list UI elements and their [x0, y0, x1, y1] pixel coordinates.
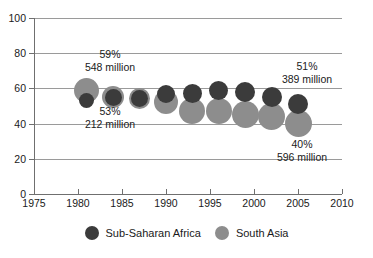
bubble-south-asia-2005[interactable]	[285, 110, 312, 137]
bubble-south-asia-2002[interactable]	[258, 103, 285, 130]
legend-label: Sub-Saharan Africa	[106, 227, 201, 239]
annotation-south-asia-1981: 59% 548 million	[56, 48, 164, 73]
annotation-value: 389 million	[253, 73, 361, 86]
bubble-sub-saharan-africa-1990[interactable]	[157, 85, 175, 103]
annotation-percent: 59%	[56, 48, 164, 61]
annotation-percent: 51%	[253, 60, 361, 73]
bubble-sub-saharan-africa-2002[interactable]	[262, 87, 282, 107]
annotation-percent: 40%	[248, 138, 356, 151]
bubble-sub-saharan-africa-1996[interactable]	[209, 81, 228, 100]
bubble-chart: 100 80 60 40 20 0 1975 1980 1985 1990 19…	[0, 0, 373, 258]
annotation-percent: 53%	[56, 105, 164, 118]
bubble-south-asia-1999[interactable]	[232, 101, 259, 128]
legend-item-sub-saharan-africa[interactable]: Sub-Saharan Africa	[85, 226, 201, 240]
legend-swatch-icon	[215, 226, 229, 240]
legend-item-south-asia[interactable]: South Asia	[215, 226, 289, 240]
legend-swatch-icon	[85, 226, 99, 240]
chart-legend: Sub-Saharan Africa South Asia	[0, 226, 373, 240]
annotation-sub-saharan-2005: 51% 389 million	[253, 60, 361, 85]
bubble-sub-saharan-africa-1993[interactable]	[183, 84, 202, 103]
annotation-value: 212 million	[56, 118, 164, 131]
bubble-sub-saharan-africa-1984[interactable]	[105, 89, 122, 106]
bubble-south-asia-1996[interactable]	[206, 98, 232, 124]
annotation-south-asia-2005: 40% 596 million	[248, 138, 356, 163]
annotation-value: 548 million	[56, 61, 164, 74]
legend-label: South Asia	[236, 227, 289, 239]
annotation-value: 596 million	[248, 151, 356, 164]
annotation-sub-saharan-1981: 53% 212 million	[56, 105, 164, 130]
